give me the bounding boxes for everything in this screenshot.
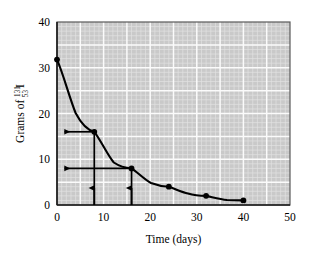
decay-curve-figure: 0 10 20 30 40 50 0 10 20 30 40 Time (day… xyxy=(0,0,319,255)
data-point xyxy=(203,193,209,199)
x-tick-labels: 0 10 20 30 40 50 xyxy=(54,211,296,223)
x-tick-label: 30 xyxy=(191,211,203,223)
y-tick-label: 10 xyxy=(39,153,51,165)
y-tick-labels: 0 10 20 30 40 xyxy=(39,16,51,211)
data-point xyxy=(129,166,135,172)
data-point xyxy=(54,57,60,63)
data-point xyxy=(241,198,247,204)
y-axis-title: Grams of 13153I xyxy=(14,84,30,143)
isotope-symbol: I xyxy=(14,84,26,88)
y-tick-label: 40 xyxy=(39,16,51,28)
x-tick-label: 10 xyxy=(98,211,110,223)
chart-canvas: 0 10 20 30 40 50 0 10 20 30 40 Time (day… xyxy=(0,0,319,255)
isotope-atomic-number: 53 xyxy=(22,90,30,98)
data-point xyxy=(166,184,172,190)
y-tick-label: 0 xyxy=(44,199,50,211)
data-point xyxy=(91,129,97,135)
y-tick-label: 20 xyxy=(39,108,51,120)
svg-text:Grams of 13153I: Grams of 13153I xyxy=(14,84,30,143)
x-tick-label: 50 xyxy=(284,211,296,223)
x-tick-label: 20 xyxy=(144,211,156,223)
x-axis-title: Time (days) xyxy=(146,233,202,246)
y-axis-title-text: Grams of xyxy=(14,100,26,143)
x-tick-label: 40 xyxy=(238,211,250,223)
x-tick-label: 0 xyxy=(54,211,60,223)
y-tick-label: 30 xyxy=(39,62,51,74)
x-axis-title-text: Time (days) xyxy=(146,233,202,246)
